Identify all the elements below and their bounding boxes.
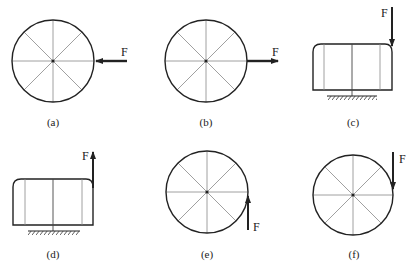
- force-diagram-figure: F (a) F (b) F (c): [0, 0, 416, 271]
- panel-c: F (c): [313, 6, 392, 129]
- ground-support-c: [327, 96, 377, 100]
- caption-f: (f): [349, 248, 360, 261]
- caption-c: (c): [347, 116, 360, 129]
- panel-d: F (d): [13, 149, 93, 261]
- caption-d: (d): [47, 248, 60, 261]
- force-label-f: F: [399, 152, 406, 166]
- force-label-e: F: [253, 220, 260, 234]
- panel-e: F (e): [166, 151, 260, 261]
- caption-e: (e): [201, 248, 214, 261]
- panel-a: F (a): [12, 20, 128, 129]
- caption-a: (a): [47, 116, 60, 129]
- force-label-a: F: [121, 45, 128, 59]
- ground-support-d: [28, 231, 80, 235]
- force-label-b: F: [272, 45, 279, 59]
- panel-b: F (b): [165, 20, 279, 129]
- caption-b: (b): [200, 116, 213, 129]
- panel-f: F (f): [313, 152, 406, 261]
- force-label-d: F: [82, 149, 89, 163]
- force-label-c: F: [381, 6, 388, 20]
